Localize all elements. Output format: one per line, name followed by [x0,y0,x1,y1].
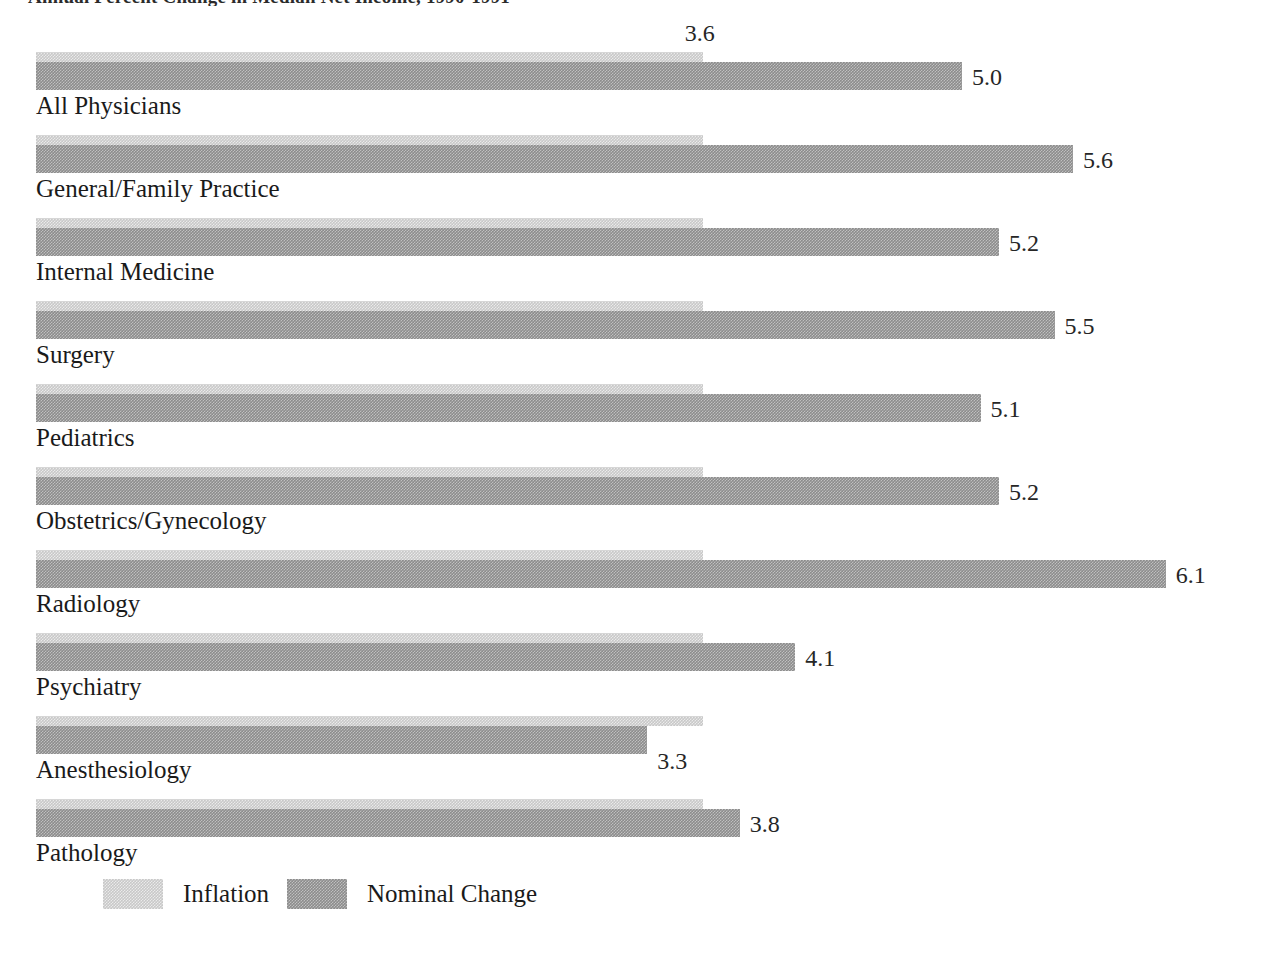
category-label: Pathology [36,839,137,868]
bar-value-nominal-change: 6.1 [1176,563,1206,587]
bar-nominal-change [36,726,647,754]
category-label: Obstetrics/Gynecology [36,507,267,536]
bar-nominal-change [36,228,999,256]
bar-nominal-change [36,62,962,90]
legend-item[interactable]: Inflation [103,872,269,916]
bar-value-nominal-change: 5.0 [972,65,1002,89]
chart-row: 6.1Radiology [0,550,1261,633]
category-label: Anesthesiology [36,756,192,785]
bar-value-nominal-change: 5.6 [1083,148,1113,172]
bar-nominal-change [36,809,740,837]
bar-inflation [36,52,703,62]
chart-row: 5.6General/Family Practice [0,135,1261,218]
plot-area: 3.65.0All Physicians5.6General/Family Pr… [0,0,1261,860]
bar-nominal-change [36,394,981,422]
chart-row: 3.65.0All Physicians [0,52,1261,135]
category-label: Radiology [36,590,140,619]
chart-row: 3.8Pathology [0,799,1261,882]
bar-value-nominal-change: 5.1 [991,397,1021,421]
legend-label: Nominal Change [367,880,537,908]
category-label: Surgery [36,341,115,370]
bar-value-nominal-change: 3.8 [750,812,780,836]
bar-nominal-change [36,560,1166,588]
chart-row: 4.1Psychiatry [0,633,1261,716]
bar-inflation [36,799,703,809]
category-label: All Physicians [36,92,181,121]
category-label: General/Family Practice [36,175,280,204]
bar-inflation [36,135,703,145]
bar-nominal-change [36,311,1055,339]
bar-value-nominal-change: 5.2 [1009,480,1039,504]
bar-value-nominal-change: 4.1 [805,646,835,670]
bar-value-nominal-change: 5.2 [1009,231,1039,255]
chart-row: 5.5Surgery [0,301,1261,384]
legend-swatch-icon [103,879,163,909]
bar-inflation [36,384,703,394]
chart-row: 5.2Internal Medicine [0,218,1261,301]
chart-row: 3.3Anesthesiology [0,716,1261,799]
legend-item[interactable]: Nominal Change [287,872,537,916]
bar-nominal-change [36,643,795,671]
bar-nominal-change [36,477,999,505]
bar-inflation [36,633,703,643]
bar-nominal-change [36,145,1073,173]
category-label: Internal Medicine [36,258,214,287]
chart-container: Annual Percent Change in Median Net Inco… [0,0,1261,973]
bar-value-inflation: 3.6 [685,21,715,45]
category-label: Pediatrics [36,424,135,453]
bar-value-nominal-change: 5.5 [1065,314,1095,338]
bar-inflation [36,218,703,228]
legend-swatch-icon [287,879,347,909]
chart-legend: InflationNominal Change [0,872,1261,932]
bar-inflation [36,301,703,311]
category-label: Psychiatry [36,673,142,702]
legend-label: Inflation [183,880,269,908]
chart-row: 5.1Pediatrics [0,384,1261,467]
bar-inflation [36,467,703,477]
bar-value-nominal-change: 3.3 [657,749,687,773]
bar-inflation [36,716,703,726]
bar-inflation [36,550,703,560]
chart-row: 5.2Obstetrics/Gynecology [0,467,1261,550]
